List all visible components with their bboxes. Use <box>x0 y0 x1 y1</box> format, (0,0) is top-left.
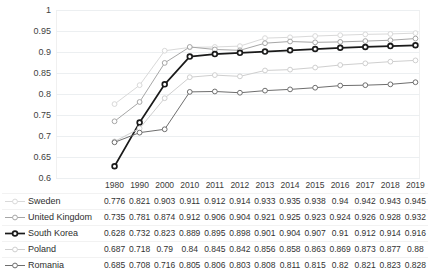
data-point <box>413 80 418 85</box>
column-header-2014: 2014 <box>277 178 302 194</box>
data-point <box>363 61 368 66</box>
data-point <box>263 88 268 93</box>
data-point <box>388 44 393 49</box>
data-point <box>187 75 192 80</box>
data-point <box>187 54 192 59</box>
data-cell: 0.924 <box>328 210 353 226</box>
series-label: South Korea <box>28 226 102 242</box>
data-cell: 0.869 <box>328 242 353 258</box>
series-layer <box>56 10 420 180</box>
data-point <box>338 40 343 45</box>
data-point <box>313 85 318 90</box>
data-point <box>338 83 343 88</box>
data-cell: 0.911 <box>177 194 202 210</box>
data-cell: 0.889 <box>177 226 202 242</box>
data-point <box>238 50 243 55</box>
y-axis-tick-0.7: 0.7 <box>38 132 51 141</box>
data-point <box>338 63 343 68</box>
data-point <box>388 59 393 64</box>
data-point <box>162 96 167 101</box>
data-point <box>112 164 117 169</box>
data-cell: 0.823 <box>378 258 403 273</box>
data-cell: 0.912 <box>177 210 202 226</box>
data-cell: 0.806 <box>202 258 227 273</box>
data-cell: 0.821 <box>353 258 378 273</box>
data-cell: 0.823 <box>152 226 177 242</box>
data-point <box>288 67 293 72</box>
data-point <box>212 73 217 78</box>
table-row: Poland0.6870.7180.790.840.8450.8420.8560… <box>2 242 428 258</box>
data-point <box>238 74 243 79</box>
data-cell: 0.874 <box>152 210 177 226</box>
series-poland <box>112 58 418 144</box>
data-cell: 0.877 <box>378 242 403 258</box>
data-cell: 0.628 <box>102 226 127 242</box>
data-cell: 0.901 <box>252 226 277 242</box>
data-cell: 0.906 <box>202 210 227 226</box>
data-cell: 0.873 <box>353 242 378 258</box>
data-point <box>363 39 368 44</box>
data-point <box>363 32 368 37</box>
data-cell: 0.904 <box>227 210 252 226</box>
column-header-2015: 2015 <box>303 178 328 194</box>
data-cell: 0.912 <box>202 194 227 210</box>
data-point <box>363 45 368 50</box>
data-cell: 0.685 <box>102 258 127 273</box>
data-point <box>137 83 142 88</box>
data-point <box>288 39 293 44</box>
data-cell: 0.732 <box>127 226 152 242</box>
series-label: Sweden <box>28 194 102 210</box>
data-point <box>413 58 418 63</box>
data-cell: 0.716 <box>152 258 177 273</box>
data-cell: 0.88 <box>403 242 428 258</box>
data-point <box>112 119 117 124</box>
data-point <box>263 49 268 54</box>
data-cell: 0.687 <box>102 242 127 258</box>
data-cell: 0.863 <box>303 242 328 258</box>
legend-marker-poland <box>2 242 28 258</box>
table-header-row: 1980199020002010201120122013201420152016… <box>2 178 428 194</box>
data-cell: 0.945 <box>403 194 428 210</box>
data-point <box>212 89 217 94</box>
data-point <box>388 82 393 87</box>
data-cell: 0.781 <box>127 210 152 226</box>
data-point <box>137 130 142 135</box>
data-point <box>162 48 167 53</box>
data-point <box>313 65 318 70</box>
series-romania <box>112 80 418 145</box>
data-cell: 0.82 <box>328 258 353 273</box>
data-cell: 0.91 <box>328 226 353 242</box>
data-cell: 0.938 <box>303 194 328 210</box>
data-cell: 0.79 <box>152 242 177 258</box>
column-header-1980: 1980 <box>102 178 127 194</box>
data-point <box>162 61 167 66</box>
table-row: Sweden0.7760.8210.9030.9110.9120.9140.93… <box>2 194 428 210</box>
series-name-corner <box>28 178 102 194</box>
y-axis-tick-0.65: 0.65 <box>33 153 51 162</box>
series-label: Poland <box>28 242 102 258</box>
data-cell: 0.735 <box>102 210 127 226</box>
column-header-2018: 2018 <box>378 178 403 194</box>
data-cell: 0.845 <box>202 242 227 258</box>
data-point <box>338 45 343 50</box>
column-header-1990: 1990 <box>127 178 152 194</box>
data-table: 1980199020002010201120122013201420152016… <box>2 178 428 273</box>
column-header-2012: 2012 <box>227 178 252 194</box>
table-head: 1980199020002010201120122013201420152016… <box>2 178 428 194</box>
data-cell: 0.943 <box>378 194 403 210</box>
data-point <box>413 36 418 41</box>
data-cell: 0.828 <box>403 258 428 273</box>
series-label: United Kingdom <box>28 210 102 226</box>
legend-marker-south-korea <box>2 226 28 242</box>
legend-marker-sweden <box>2 194 28 210</box>
data-point <box>388 38 393 43</box>
data-point <box>288 87 293 92</box>
data-cell: 0.94 <box>328 194 353 210</box>
data-point <box>187 45 192 50</box>
data-cell: 0.914 <box>378 226 403 242</box>
data-point <box>263 68 268 73</box>
data-cell: 0.912 <box>353 226 378 242</box>
data-point <box>313 34 318 39</box>
chart-plot-area: 0.60.650.70.750.80.850.90.951 <box>56 10 420 178</box>
